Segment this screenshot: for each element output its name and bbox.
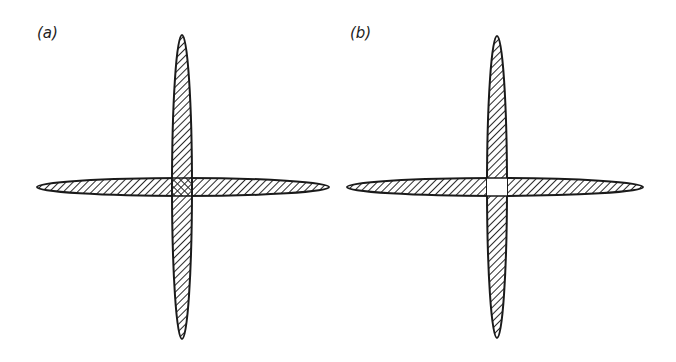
panel-label-b: (b)	[350, 24, 371, 42]
diagram-canvas	[0, 0, 676, 362]
panel-a	[37, 35, 329, 339]
panel-b	[347, 36, 643, 338]
panel-label-a: (a)	[37, 24, 58, 42]
